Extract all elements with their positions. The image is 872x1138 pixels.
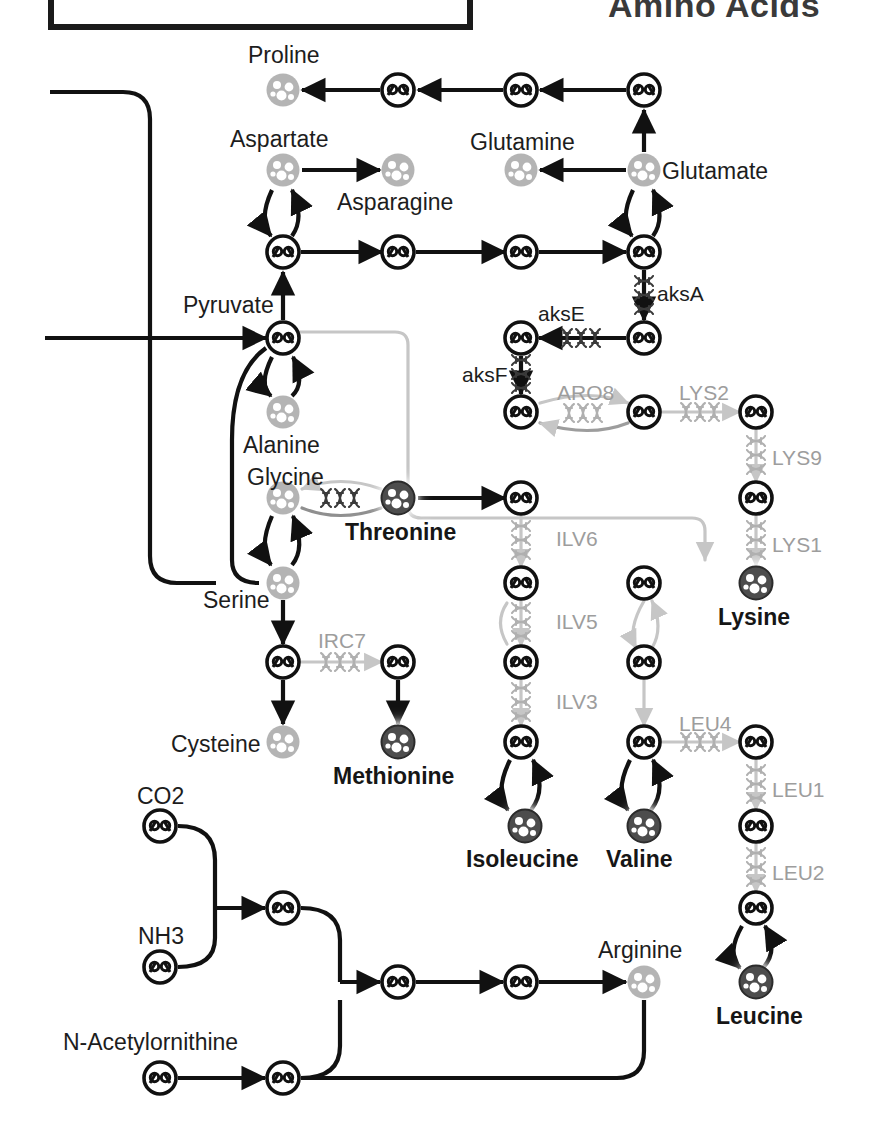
enzyme-helix-icon-IRC7 [319, 651, 363, 673]
metabolite-node-threonine[interactable] [378, 478, 418, 518]
intermediate-node-i-arg-2[interactable] [263, 1058, 303, 1098]
metabolite-label-lysine: Lysine [718, 606, 790, 629]
metabolite-label-valine: Valine [606, 848, 672, 871]
intermediate-node-i-aks-1[interactable] [624, 318, 664, 358]
enzyme-label-aksF: aksF [462, 364, 508, 385]
intermediate-node-i-aks-3[interactable] [501, 392, 541, 432]
metabolite-node-nh3[interactable] [140, 947, 180, 987]
intermediate-node-i-ilv-4[interactable] [501, 722, 541, 762]
intermediate-node-i-ilv-1[interactable] [501, 478, 541, 518]
intermediate-node-i-leu-2[interactable] [736, 806, 776, 846]
intermediate-node-i-ilv-2[interactable] [501, 563, 541, 603]
metabolite-node-asparagine[interactable] [378, 150, 418, 190]
enzyme-label-LYS1: LYS1 [772, 534, 822, 555]
metabolite-label-aspartate: Aspartate [230, 128, 328, 151]
enzyme-helix-icon-aksE [560, 327, 604, 349]
metabolite-label-cysteine: Cysteine [171, 733, 260, 756]
enzyme-label-ILV3: ILV3 [556, 691, 598, 712]
intermediate-node-i-arg-1[interactable] [263, 888, 303, 928]
pathway-diagram-canvas: Amino Acids [0, 0, 872, 1138]
enzyme-label-IRC7: IRC7 [318, 630, 366, 651]
metabolite-node-leucine[interactable] [736, 962, 776, 1002]
metabolite-node-isoleucine[interactable] [505, 806, 545, 846]
enzyme-label-aksE: aksE [538, 303, 585, 324]
enzyme-helix-icon-aksF [510, 353, 532, 397]
enzyme-label-aksA: aksA [657, 283, 704, 304]
intermediate-node-i-leu-3[interactable] [736, 888, 776, 928]
enzyme-helix-icon-LYS9 [745, 434, 767, 478]
metabolite-node-lysine[interactable] [736, 563, 776, 603]
enzyme-helix-icon-thr [319, 487, 363, 509]
metabolite-node-pyruvate[interactable] [263, 318, 303, 358]
metabolite-node-co2[interactable] [140, 806, 180, 846]
intermediate-node-i-val-2[interactable] [624, 642, 664, 682]
intermediate-node-i-glu-1[interactable] [624, 232, 664, 272]
intermediate-node-i-mid-2[interactable] [378, 232, 418, 272]
metabolite-label-co2: CO2 [137, 785, 184, 808]
enzyme-helix-icon-ILV6 [510, 519, 532, 563]
metabolite-label-glutamine: Glutamine [470, 131, 575, 154]
enzyme-helix-icon-ILV5 [510, 601, 532, 645]
enzyme-helix-icon-LEU2 [745, 846, 767, 890]
metabolite-node-proline[interactable] [263, 70, 303, 110]
metabolite-label-glycine: Glycine [247, 466, 324, 489]
intermediate-node-i-cys-1[interactable] [263, 642, 303, 682]
intermediate-node-i-arg-4[interactable] [501, 962, 541, 1002]
intermediate-node-i-mid-3[interactable] [501, 232, 541, 272]
intermediate-node-i-asp-1[interactable] [263, 232, 303, 272]
metabolite-label-alanine: Alanine [243, 434, 320, 457]
metabolite-label-threonine: Threonine [345, 521, 456, 544]
enzyme-label-ARO8: ARO8 [557, 382, 614, 403]
enzyme-helix-icon-LEU4 [679, 731, 723, 753]
metabolite-label-isoleucine: Isoleucine [466, 848, 578, 871]
intermediate-node-i-met-1[interactable] [378, 642, 418, 682]
intermediate-node-i-pro-3[interactable] [624, 70, 664, 110]
metabolite-label-leucine: Leucine [716, 1005, 803, 1028]
metabolite-label-proline: Proline [248, 44, 320, 67]
metabolite-node-alanine[interactable] [263, 392, 303, 432]
enzyme-label-LYS2: LYS2 [679, 382, 729, 403]
intermediate-node-i-pro-2[interactable] [501, 70, 541, 110]
metabolite-label-glutamate: Glutamate [662, 160, 768, 183]
metabolite-node-aspartate[interactable] [263, 150, 303, 190]
enzyme-label-ILV5: ILV5 [556, 611, 598, 632]
enzyme-label-LEU1: LEU1 [772, 779, 825, 800]
enzyme-label-LEU2: LEU2 [772, 862, 825, 883]
enzyme-helix-icon-ARO8 [562, 402, 606, 424]
intermediate-node-i-aks-2[interactable] [501, 318, 541, 358]
intermediate-node-i-pro-1[interactable] [378, 70, 418, 110]
metabolite-label-asparagine: Asparagine [337, 191, 453, 214]
metabolite-label-nacetylornithine: N-Acetylornithine [63, 1031, 238, 1054]
metabolite-label-serine: Serine [203, 589, 269, 612]
metabolite-node-nacetylornithine[interactable] [140, 1058, 180, 1098]
metabolite-node-valine[interactable] [624, 806, 664, 846]
metabolite-node-glutamine[interactable] [501, 150, 541, 190]
enzyme-helix-icon-LYS1 [745, 519, 767, 563]
intermediate-node-i-arg-3[interactable] [378, 962, 418, 1002]
metabolite-node-cysteine[interactable] [263, 722, 303, 762]
intermediate-node-i-leu-1[interactable] [736, 722, 776, 762]
enzyme-helix-icon-aksA [633, 274, 655, 318]
intermediate-node-i-ilv-3[interactable] [501, 642, 541, 682]
intermediate-node-i-lys-1[interactable] [736, 392, 776, 432]
intermediate-node-i-val-1[interactable] [624, 563, 664, 603]
metabolite-node-methionine[interactable] [378, 722, 418, 762]
enzyme-label-LYS9: LYS9 [772, 447, 822, 468]
enzyme-helix-icon-ILV3 [510, 681, 532, 725]
enzyme-helix-icon-LYS2 [679, 401, 723, 423]
intermediate-node-i-val-3[interactable] [624, 722, 664, 762]
metabolite-node-arginine[interactable] [624, 962, 664, 1002]
metabolite-label-pyruvate: Pyruvate [183, 294, 274, 317]
metabolite-label-methionine: Methionine [333, 765, 454, 788]
intermediate-node-i-lys-2[interactable] [736, 478, 776, 518]
intermediate-node-i-aro-1[interactable] [624, 392, 664, 432]
metabolite-label-arginine: Arginine [598, 939, 682, 962]
metabolite-node-glutamate[interactable] [624, 150, 664, 190]
enzyme-label-ILV6: ILV6 [556, 528, 598, 549]
metabolite-label-nh3: NH3 [138, 925, 184, 948]
enzyme-helix-icon-LEU1 [745, 763, 767, 807]
